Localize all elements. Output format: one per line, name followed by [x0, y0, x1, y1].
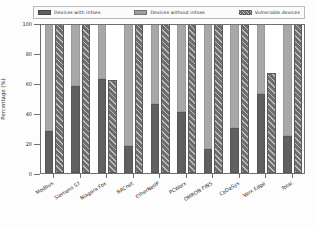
x-tick-mark [292, 174, 293, 178]
x-tick-mark [106, 174, 107, 178]
x-tick-mark [212, 174, 213, 178]
x-tick-label: Verx Edge [242, 180, 267, 198]
x-tick-label: Modbus [35, 180, 55, 195]
x-tick-mark [80, 174, 81, 178]
x-axis-ticks: ModbusSiemens S7Niagara FoxBACnetEtherNe… [0, 0, 315, 228]
x-tick-label: PCWorx [168, 180, 187, 195]
figure-canvas: Devices with infoes Devices without info… [0, 0, 315, 228]
x-tick-label: Total [280, 180, 293, 191]
x-tick-mark [186, 174, 187, 178]
x-tick-label: OMRON FINS [183, 180, 214, 202]
x-tick-mark [239, 174, 240, 178]
x-tick-label: Siemens S7 [53, 180, 81, 201]
x-tick-label: BACnet [115, 180, 134, 195]
x-tick-mark [265, 174, 266, 178]
x-tick-mark [133, 174, 134, 178]
x-tick-label: Niagara Fox [79, 180, 107, 201]
x-tick-mark [159, 174, 160, 178]
x-tick-label: EtherNetIP [135, 180, 161, 199]
x-tick-mark [53, 174, 54, 178]
x-tick-label: CoDeSys [218, 180, 240, 197]
